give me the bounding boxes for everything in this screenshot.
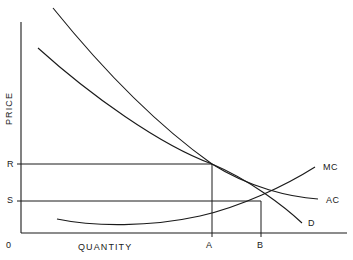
y-axis-title: PRICE bbox=[5, 92, 14, 125]
curve-d bbox=[38, 48, 302, 223]
origin-label: 0 bbox=[6, 241, 11, 250]
curve-label-d: D bbox=[308, 219, 315, 228]
curve-mc bbox=[57, 167, 315, 225]
curve-ac bbox=[53, 8, 318, 199]
y-tick-label-R: R bbox=[7, 160, 14, 169]
y-tick-label-S: S bbox=[7, 196, 13, 205]
curve-label-ac: AC bbox=[326, 196, 339, 205]
x-tick-label-B: B bbox=[257, 241, 263, 250]
x-axis-title: QUANTITY bbox=[78, 243, 132, 252]
economics-diagram: PRICE QUANTITY 0 R S A B MC AC D bbox=[0, 0, 353, 260]
x-tick-label-A: A bbox=[206, 241, 212, 250]
curve-label-mc: MC bbox=[323, 163, 338, 172]
plot-canvas bbox=[0, 0, 353, 260]
